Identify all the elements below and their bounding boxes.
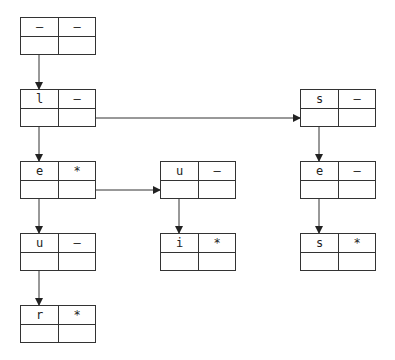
sibling-pointer-cell (338, 108, 376, 127)
node-u1: u – (20, 233, 96, 271)
node-flag: – (58, 234, 96, 253)
child-pointer-cell (301, 180, 339, 199)
node-root: – – (20, 17, 96, 55)
node-i: i * (160, 233, 236, 271)
child-pointer-cell (21, 180, 59, 199)
sibling-pointer-cell (58, 36, 96, 55)
sibling-pointer-cell (338, 252, 376, 271)
sibling-pointer-cell (58, 324, 96, 343)
node-flag: – (338, 162, 376, 181)
trie-diagram: – – l – e * u – r * u – i * s (0, 0, 395, 360)
sibling-pointer-cell (338, 180, 376, 199)
node-char: e (21, 162, 59, 181)
node-u2: u – (160, 161, 236, 199)
child-pointer-cell (21, 108, 59, 127)
sibling-pointer-cell (198, 252, 236, 271)
child-pointer-cell (21, 324, 59, 343)
child-pointer-cell (21, 36, 59, 55)
node-l: l – (20, 89, 96, 127)
node-s2: s * (300, 233, 376, 271)
node-flag: – (338, 90, 376, 109)
node-char: u (21, 234, 59, 253)
node-char: e (301, 162, 339, 181)
node-char: l (21, 90, 59, 109)
node-e1: e * (20, 161, 96, 199)
node-char: r (21, 306, 59, 325)
node-flag: * (338, 234, 376, 253)
sibling-pointer-cell (58, 252, 96, 271)
node-s1: s – (300, 89, 376, 127)
node-char: s (301, 234, 339, 253)
child-pointer-cell (161, 180, 199, 199)
child-pointer-cell (21, 252, 59, 271)
child-pointer-cell (161, 252, 199, 271)
node-char: s (301, 90, 339, 109)
node-flag: * (58, 162, 96, 181)
node-flag: * (58, 306, 96, 325)
node-e2: e – (300, 161, 376, 199)
child-pointer-cell (301, 108, 339, 127)
node-char: – (21, 18, 59, 37)
node-r: r * (20, 305, 96, 343)
sibling-pointer-cell (58, 108, 96, 127)
node-flag: * (198, 234, 236, 253)
child-pointer-cell (301, 252, 339, 271)
node-flag: – (198, 162, 236, 181)
sibling-pointer-cell (198, 180, 236, 199)
sibling-pointer-cell (58, 180, 96, 199)
node-flag: – (58, 90, 96, 109)
node-char: u (161, 162, 199, 181)
node-char: i (161, 234, 199, 253)
node-flag: – (58, 18, 96, 37)
